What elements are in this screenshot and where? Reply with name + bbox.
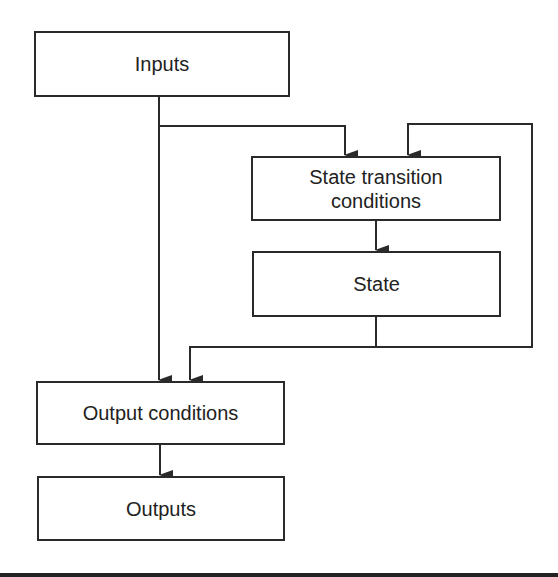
node-inputs: Inputs <box>34 31 290 97</box>
node-state-transition-label-line2: conditions <box>331 189 421 213</box>
node-outputs: Outputs <box>37 476 285 541</box>
node-inputs-label: Inputs <box>135 52 189 76</box>
node-output-conditions: Output conditions <box>36 381 285 445</box>
node-state-label: State <box>353 272 400 296</box>
node-outputs-label: Outputs <box>126 497 196 521</box>
node-state: State <box>252 251 501 317</box>
edge-inputs-to-state-transition <box>159 126 345 155</box>
node-state-transition-conditions: State transition conditions <box>251 156 501 221</box>
edge-state-to-output-conditions <box>190 347 376 380</box>
bottom-border-rule <box>0 573 558 577</box>
node-output-conditions-label: Output conditions <box>83 401 239 425</box>
node-state-transition-label-line1: State transition <box>309 165 442 189</box>
